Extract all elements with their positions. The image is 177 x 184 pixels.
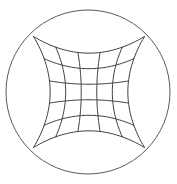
grid-vertical-line-2 <box>56 47 66 137</box>
circle-group <box>6 10 170 174</box>
grid-horizontal-line-4 <box>49 100 128 103</box>
grid-horizontal-line-3 <box>49 81 128 84</box>
grid-horizontal-line-2 <box>44 59 134 69</box>
grid-vertical-line-3 <box>78 52 81 131</box>
distorted-grid-group <box>34 37 145 148</box>
figure-canvas <box>0 0 177 184</box>
figure-container <box>0 0 177 184</box>
grid-horizontal-line-6 <box>34 131 145 148</box>
grid-horizontal-line-1 <box>34 37 145 54</box>
grid-vertical-line-5 <box>112 47 122 137</box>
grid-vertical-line-4 <box>97 52 100 131</box>
bounding-circle <box>6 10 170 174</box>
grid-vertical-line-1 <box>34 37 51 148</box>
grid-vertical-line-6 <box>128 37 145 148</box>
grid-horizontal-line-5 <box>44 115 134 125</box>
